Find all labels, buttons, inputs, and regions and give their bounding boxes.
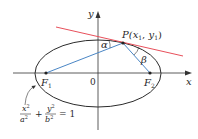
tangent-line <box>56 27 183 56</box>
focus-f2-dot <box>148 71 151 74</box>
svg-text:= 1: = 1 <box>59 109 75 119</box>
y-axis-label: y <box>87 8 94 19</box>
point-p-dot <box>121 41 124 44</box>
alpha-arc <box>109 41 110 49</box>
focus-f1-dot <box>44 71 47 74</box>
svg-text:y2: y2 <box>46 103 55 113</box>
svg-text:b2: b2 <box>45 114 53 124</box>
svg-text:+: + <box>35 109 43 119</box>
svg-text:a2: a2 <box>20 114 28 124</box>
origin-label: 0 <box>90 77 96 87</box>
y-axis-arrowhead <box>96 11 101 18</box>
svg-text:x2: x2 <box>22 103 30 113</box>
alpha-label: α <box>101 39 108 50</box>
x-axis-label: x <box>186 76 192 87</box>
focus-f1-label: F1 <box>40 77 52 89</box>
ellipse-diagram: y x 0 F1 F2 P(x1, y1) α β x2 a2 + y2 b2 … <box>0 0 198 139</box>
ellipse-equation: x2 a2 + y2 b2 = 1 <box>20 103 75 124</box>
beta-label: β <box>140 54 147 65</box>
point-p-label: P(x1, y1) <box>121 29 162 41</box>
focus-f2-label: F2 <box>143 77 155 89</box>
equation-pointer-arrowhead <box>32 86 37 90</box>
x-axis-arrowhead <box>185 71 192 76</box>
